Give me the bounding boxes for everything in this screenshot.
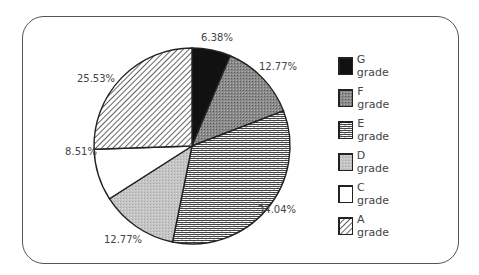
legend-item-g: G grade xyxy=(338,56,392,76)
swatch-e xyxy=(338,121,353,139)
legend-item-a: A grade xyxy=(338,216,392,236)
swatch-c xyxy=(338,185,353,203)
slice-label-d: 12.77% xyxy=(104,234,142,245)
swatch-a xyxy=(338,217,353,235)
pie-chart: 6.38%12.77%34.04%12.77%8.51%25.53% xyxy=(0,0,479,275)
slice-label-f: 12.77% xyxy=(259,61,297,72)
legend-label: D grade xyxy=(357,149,392,175)
swatch-f xyxy=(338,89,353,107)
legend-item-d: D grade xyxy=(338,152,392,172)
legend-label: F grade xyxy=(357,85,392,111)
legend-label: E grade xyxy=(357,117,392,143)
legend-label: C grade xyxy=(357,181,392,207)
legend-label: G grade xyxy=(357,53,392,79)
slice-label-e: 34.04% xyxy=(258,204,296,215)
slice-label-g: 6.38% xyxy=(201,32,233,43)
swatch-d xyxy=(338,153,353,171)
legend-label: A grade xyxy=(357,213,392,239)
slice-label-c: 8.51% xyxy=(65,146,97,157)
slice-label-a: 25.53% xyxy=(77,73,115,84)
legend-item-f: F grade xyxy=(338,88,392,108)
pie-slice-a xyxy=(94,48,192,149)
swatch-g xyxy=(338,57,353,75)
legend-item-e: E grade xyxy=(338,120,392,140)
legend-item-c: C grade xyxy=(338,184,392,204)
